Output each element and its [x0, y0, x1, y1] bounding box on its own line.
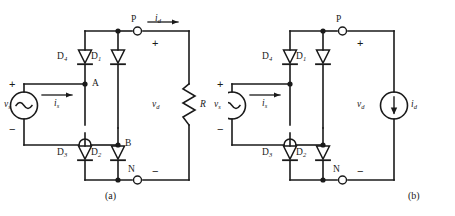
diode-label-d1-b: D1 [296, 52, 306, 62]
diode-d3-symbol-b [283, 146, 297, 160]
node-label-p-b: P [336, 15, 341, 25]
output-minus-b: − [357, 166, 363, 177]
source-plus-b: + [217, 79, 223, 90]
circuit-figure: vs + − is D4 D1 D3 D2 A B P N id + − vd … [0, 0, 455, 216]
diode-label-d3-a: D3 [57, 148, 67, 158]
caption-b: (b) [408, 191, 420, 201]
node-label-b: B [125, 139, 131, 149]
terminal-p-b [339, 27, 347, 35]
arrow-is [42, 92, 72, 97]
junction-dot-top-b [320, 28, 325, 33]
diode-label-d2-b: D2 [296, 148, 306, 158]
diode-label-d3-b: D3 [262, 148, 272, 158]
caption-a: (a) [105, 191, 116, 201]
arrow-is-b [250, 92, 280, 97]
diode-d1-symbol-b [316, 50, 330, 64]
ac-sine-symbol-b [228, 103, 240, 109]
source-plus-a: + [9, 79, 15, 90]
current-label-is-b: is [262, 99, 267, 109]
output-plus-b: + [357, 38, 363, 49]
junction-dot-bottom-b [320, 177, 325, 182]
output-plus-a: + [152, 38, 158, 49]
terminal-p [134, 27, 142, 35]
arrow-id [148, 19, 178, 24]
terminal-n [134, 176, 142, 184]
source-minus-a: − [9, 124, 15, 135]
node-label-n-a: N [128, 165, 135, 175]
diode-d4-symbol-b [283, 50, 297, 64]
resistor-symbol [183, 84, 195, 125]
output-minus-a: − [152, 166, 158, 177]
source-minus-b: − [217, 124, 223, 135]
junction-dot-bottom [115, 177, 120, 182]
diode-d4-symbol [78, 50, 92, 64]
diode-label-d1-a: D1 [91, 52, 101, 62]
diode-d1-symbol [111, 50, 125, 64]
load-label-id: id [411, 100, 417, 110]
diode-d2-symbol [111, 146, 125, 160]
junction-dot-top [115, 28, 120, 33]
current-source-symbol [381, 92, 408, 119]
node-label-p-a: P [131, 15, 136, 25]
output-voltage-label-b: vd [357, 100, 364, 110]
source-label-b: vs [214, 100, 221, 110]
node-label-n-b: N [333, 165, 340, 175]
junction-dot-b [115, 142, 120, 147]
current-label-id-a: id [155, 14, 161, 24]
junction-dot-b-b [320, 142, 325, 147]
diode-label-d2-a: D2 [91, 148, 101, 158]
junction-dot-a-b [287, 81, 292, 86]
source-label-a: vs [4, 100, 11, 110]
circuit-a-schematic [0, 0, 227, 216]
output-voltage-label-a: vd [152, 100, 159, 110]
circuit-a: vs + − is D4 D1 D3 D2 A B P N id + − vd … [0, 0, 227, 216]
diode-d3-symbol [78, 146, 92, 160]
current-label-is-a: is [54, 99, 59, 109]
junction-dot-a [82, 81, 87, 86]
diode-d2-symbol-b [316, 146, 330, 160]
ac-sine-symbol [16, 103, 32, 109]
load-label-r: R [200, 100, 206, 110]
diode-label-d4-a: D4 [57, 52, 67, 62]
circuit-b: vs + − is D4 D1 D3 D2 P N + − vd id (b) [228, 0, 455, 216]
diode-label-d4-b: D4 [262, 52, 272, 62]
ac-source-circle-b [228, 92, 246, 119]
node-label-a: A [92, 79, 99, 89]
terminal-n-b [339, 176, 347, 184]
